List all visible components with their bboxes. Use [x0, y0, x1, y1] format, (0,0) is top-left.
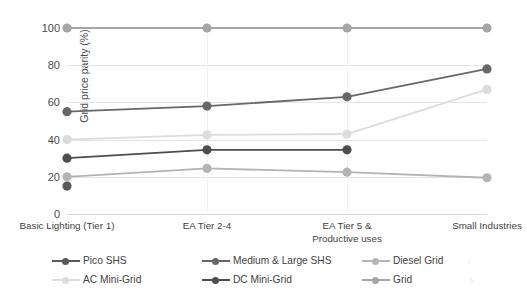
legend-item-ac-mini-grid[interactable]: AC Mini-Grid [52, 274, 202, 285]
y-tick-label-80: 80 [30, 59, 60, 71]
data-point [62, 182, 71, 191]
legend-label: Medium & Large SHS [233, 255, 332, 266]
legend-marker-icon [202, 274, 230, 285]
x-tick-label-1: EA Tier 2-4 [142, 220, 272, 233]
legend-marker-icon [362, 274, 390, 285]
data-point [202, 130, 211, 139]
data-point [482, 173, 491, 182]
series-line [67, 69, 487, 112]
legend-label: Diesel Grid [393, 255, 443, 266]
data-point [202, 145, 211, 154]
series-layer [67, 28, 487, 214]
legend-item-pico-shs[interactable]: Pico SHS [52, 255, 202, 266]
data-point [62, 107, 71, 116]
data-point [62, 172, 71, 181]
y-tick-label-60: 60 [30, 96, 60, 108]
legend-item-medium-large-shs[interactable]: Medium & Large SHS [202, 255, 362, 266]
x-tick-label-0: Basic Lighting (Tier 1) [2, 220, 132, 233]
y-tick-label-0: 0 [30, 208, 60, 220]
legend-item-diesel-grid[interactable]: Diesel Grid [362, 255, 472, 266]
x-tick-label-3: Small Industries [422, 220, 527, 233]
data-point [62, 23, 71, 32]
gridline-0 [67, 214, 487, 215]
data-point [62, 154, 71, 163]
series-dc-mini-grid [62, 145, 351, 163]
legend-item-grid[interactable]: Grid [362, 274, 472, 285]
chart-legend: Pico SHSMedium & Large SHSDiesel GridAC … [52, 251, 472, 289]
data-point [482, 85, 491, 94]
data-point [342, 145, 351, 154]
x-tick-label-2: EA Tier 5 & Productive uses [282, 220, 412, 245]
y-tick-label-100: 100 [30, 22, 60, 34]
chart-title [0, 0, 505, 11]
data-point [342, 129, 351, 138]
series-diesel-grid [62, 164, 491, 183]
data-point [202, 23, 211, 32]
data-point [482, 23, 491, 32]
y-tick-label-40: 40 [30, 134, 60, 146]
plot-area: Grid price parity (%) 020406080100 Basic… [67, 28, 487, 214]
series-ac-mini-grid [62, 85, 491, 144]
legend-item-dc-mini-grid[interactable]: DC Mini-Grid [202, 274, 362, 285]
legend-label: Pico SHS [83, 255, 127, 266]
y-tick-label-20: 20 [30, 171, 60, 183]
legend-marker-icon [202, 255, 230, 266]
data-point [342, 92, 351, 101]
legend-marker-icon [52, 255, 80, 266]
data-point [62, 135, 71, 144]
legend-label: AC Mini-Grid [83, 274, 141, 285]
data-point [342, 168, 351, 177]
watermark-artifact-1: r [468, 258, 470, 265]
series-grid [62, 23, 491, 32]
data-point [202, 102, 211, 111]
data-point [202, 164, 211, 173]
data-point [342, 23, 351, 32]
series-line [67, 168, 487, 177]
legend-marker-icon [52, 274, 80, 285]
data-point [482, 64, 491, 73]
legend-label: DC Mini-Grid [233, 274, 292, 285]
legend-marker-icon [362, 255, 390, 266]
legend-label: Grid [393, 274, 412, 285]
series-pico-shs [62, 182, 71, 191]
series-line [67, 89, 487, 139]
watermark-artifact-2: s [470, 276, 474, 283]
